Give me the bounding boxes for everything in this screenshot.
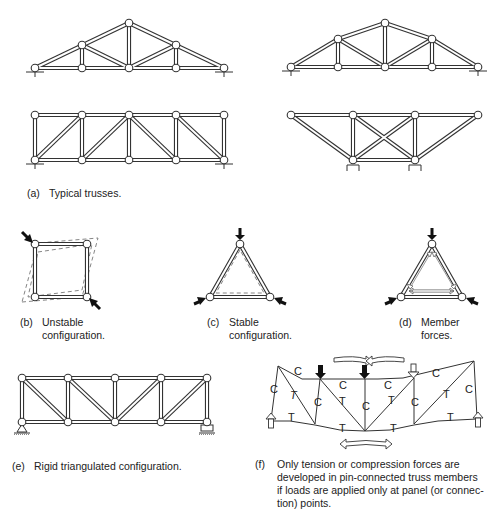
- load-arrow-icon: [385, 297, 397, 305]
- load-arrow-icon: [466, 297, 478, 305]
- caption-tag: (e): [12, 460, 34, 473]
- compression-arrows-icon: [334, 356, 404, 366]
- svg-text:C: C: [294, 365, 302, 377]
- load-arrow-icon: [427, 228, 437, 240]
- caption-text: if loads are applied only at panel (or c…: [255, 484, 484, 497]
- caption-tag: (a): [27, 187, 49, 200]
- svg-text:T: T: [447, 411, 454, 423]
- caption-e: (e)Rigid triangulated configuration.: [12, 460, 182, 473]
- caption-text: Member: [421, 316, 460, 328]
- caption-a: (a)Typical trusses.: [27, 187, 121, 200]
- load-arrow-icon: [315, 365, 326, 379]
- load-arrow-icon: [274, 297, 286, 305]
- load-arrow-icon: [359, 365, 370, 379]
- roller-support-icon: [199, 425, 215, 435]
- truss-a4-cantilever: [287, 111, 482, 171]
- svg-text:C: C: [270, 383, 278, 395]
- truss-a2-polygonal: [282, 19, 487, 76]
- rigid-triangulated-truss: [14, 374, 215, 434]
- member-forces-triangle: [385, 228, 478, 305]
- caption-text: Typical trusses.: [49, 187, 121, 199]
- svg-text:T: T: [443, 388, 450, 400]
- svg-text:T: T: [288, 411, 295, 423]
- caption-c: (c)Stable configuration.: [207, 316, 292, 342]
- caption-text: Stable: [229, 316, 259, 328]
- caption-tag: (b): [20, 316, 42, 329]
- caption-text: tion) points.: [255, 497, 484, 510]
- caption-text: configuration.: [207, 329, 292, 342]
- svg-text:C: C: [411, 396, 419, 408]
- svg-text:C: C: [314, 396, 322, 408]
- caption-tag: (f): [255, 458, 277, 471]
- caption-d: (d)Member forces.: [399, 316, 460, 342]
- truss-diagram: .m { stroke: #333; stroke-width: 4.2; fi…: [0, 0, 504, 527]
- truss-a1-roof: [26, 19, 233, 77]
- svg-text:C: C: [465, 383, 473, 395]
- svg-text:C: C: [384, 379, 392, 391]
- tension-arrow-icon: [340, 439, 392, 449]
- caption-text: forces.: [399, 329, 460, 342]
- caption-tag: (d): [399, 316, 421, 329]
- caption-f: (f)Only tension or compression forces ar…: [255, 458, 484, 510]
- load-arrow-icon: [22, 232, 33, 243]
- load-arrow-icon: [194, 297, 206, 305]
- caption-b: (b)Unstable configuration.: [20, 316, 105, 342]
- svg-text:T: T: [390, 422, 397, 434]
- svg-text:T: T: [339, 422, 346, 434]
- caption-text: developed in pin-connected truss members: [255, 471, 484, 484]
- svg-text:T: T: [388, 394, 395, 406]
- caption-text: Only tension or compression forces are: [277, 458, 460, 470]
- caption-text: Unstable: [42, 316, 83, 328]
- caption-text: Rigid triangulated configuration.: [34, 460, 182, 472]
- svg-text:C: C: [339, 379, 347, 391]
- truss-a3-parallel-chord: [26, 111, 233, 169]
- svg-text:C: C: [432, 367, 440, 379]
- svg-text:T: T: [339, 395, 346, 407]
- svg-text:C: C: [362, 400, 370, 412]
- unstable-square-frame: [22, 232, 100, 309]
- caption-text: configuration.: [20, 329, 105, 342]
- stable-triangle-frame: [194, 228, 286, 305]
- caption-tag: (c): [207, 316, 229, 329]
- load-arrow-icon: [89, 298, 100, 309]
- load-arrow-icon: [235, 228, 245, 240]
- tension-compression-diagram: C C C C C C C C C T T T T T T T T: [266, 356, 483, 449]
